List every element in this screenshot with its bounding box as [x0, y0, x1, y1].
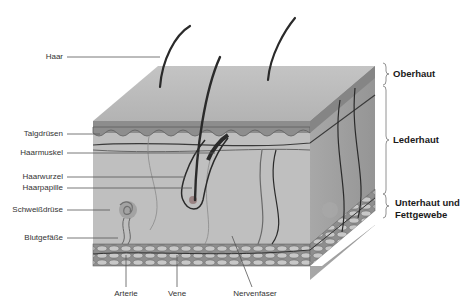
label-talgdruesen: Talgdrüsen [24, 130, 63, 138]
label-haar: Haar [46, 53, 63, 61]
label-haarpapille: Haarpapille [23, 184, 63, 192]
label-schweissdruese: Schweißdrüse [12, 206, 63, 214]
label-vene: Vene [168, 290, 186, 298]
fat-layer [93, 244, 310, 266]
skin-illustration [0, 0, 472, 307]
label-arterie: Arterie [114, 290, 138, 298]
layer-braces [383, 63, 389, 218]
layer-unterhaut: Unterhaut und Fettgewebe [395, 197, 460, 222]
layer-lederhaut: Lederhaut [393, 134, 439, 146]
label-blutgefaesse: Blutgefäße [24, 234, 63, 242]
layer-unterhaut-line2: Fettgewebe [395, 209, 460, 221]
skin-diagram: Haar Talgdrüsen Haarmuskel Haarwurzel Ha… [0, 0, 472, 307]
layer-oberhaut: Oberhaut [393, 68, 435, 80]
label-haarwurzel: Haarwurzel [23, 173, 63, 181]
layer-unterhaut-line1: Unterhaut und [395, 197, 460, 209]
dermis-front [93, 121, 310, 244]
label-haarmuskel: Haarmuskel [20, 149, 63, 157]
sweat-gland [119, 201, 137, 219]
label-nervenfaser: Nervenfaser [233, 290, 277, 298]
